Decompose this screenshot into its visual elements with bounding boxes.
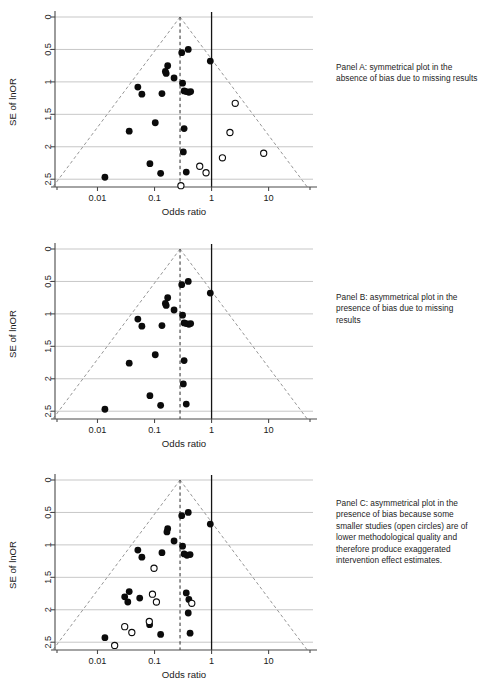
y-tick-label: 0 <box>43 14 53 19</box>
data-point-open <box>151 565 157 571</box>
x-tick-label: 10 <box>263 425 273 435</box>
y-tick-label: 1 <box>43 542 53 547</box>
y-tick-label: 1.5 <box>43 340 53 353</box>
data-point-filled <box>157 631 164 638</box>
panel-c-caption: Panel C: asymmetrical plot in the presen… <box>336 498 478 566</box>
data-point-open <box>197 163 203 169</box>
data-point-filled <box>180 149 187 156</box>
y-tick-label: 2 <box>43 376 53 381</box>
y-tick-label: 2.5 <box>43 405 53 418</box>
data-point-filled <box>136 595 143 602</box>
data-point-filled <box>134 316 141 323</box>
data-point-open <box>219 155 225 161</box>
panel-a-plot: 00.511.522.50.010.1110Odds ratioSE of ln… <box>0 0 330 232</box>
panel-a-caption: Panel A: symmetrical plot in the absence… <box>336 62 478 85</box>
y-tick-label: 2 <box>43 607 53 612</box>
data-point-open <box>129 629 135 635</box>
y-tick-label: 1 <box>43 79 53 84</box>
data-point-open <box>189 600 195 606</box>
data-point-filled <box>187 320 194 327</box>
data-point-filled <box>187 551 194 558</box>
data-point-open <box>149 591 155 597</box>
data-point-filled <box>147 160 154 167</box>
data-point-filled <box>183 590 190 597</box>
x-axis-title: Odds ratio <box>162 206 206 217</box>
panel-b-caption: Panel B: asymmetrical plot in the presen… <box>336 292 478 326</box>
data-point-filled <box>157 170 164 177</box>
data-point-filled <box>185 46 192 53</box>
data-point-filled <box>164 294 171 301</box>
data-point-filled <box>126 360 133 367</box>
data-point-filled <box>181 357 188 364</box>
funnel-right-limit <box>180 17 307 187</box>
data-point-filled <box>163 302 170 309</box>
data-point-filled <box>159 322 166 329</box>
y-tick-label: 0.5 <box>43 506 53 519</box>
y-tick-label: 0 <box>43 477 53 482</box>
data-point-filled <box>152 119 159 126</box>
y-axis-title: SE of lnOR <box>7 541 18 589</box>
y-axis-title: SE of lnOR <box>7 78 18 126</box>
data-point-filled <box>102 174 109 181</box>
data-point-filled <box>183 169 190 176</box>
data-point-open <box>146 618 152 624</box>
data-point-filled <box>102 406 109 413</box>
funnel-right-limit <box>180 249 307 419</box>
data-point-filled <box>171 75 178 82</box>
data-point-filled <box>187 630 194 637</box>
data-point-filled <box>185 509 192 516</box>
y-tick-label: 2.5 <box>43 173 53 186</box>
x-axis-title: Odds ratio <box>162 438 206 449</box>
panel-b-plot: 00.511.522.50.010.1110Odds ratioSE of ln… <box>0 232 330 464</box>
panel-b: 00.511.522.50.010.1110Odds ratioSE of ln… <box>0 232 478 464</box>
panel-b-svg: 00.511.522.50.010.1110Odds ratioSE of ln… <box>0 232 330 464</box>
data-point-filled <box>124 599 131 606</box>
data-point-open <box>232 100 238 106</box>
data-point-filled <box>178 281 185 288</box>
data-point-open <box>122 624 128 630</box>
data-point-filled <box>159 90 166 97</box>
data-point-filled <box>138 91 145 98</box>
data-point-filled <box>178 49 185 56</box>
data-point-filled <box>207 521 214 528</box>
data-point-filled <box>163 70 170 77</box>
data-point-filled <box>180 381 187 388</box>
data-point-filled <box>138 323 145 330</box>
funnel-left-limit <box>53 249 180 419</box>
data-point-filled <box>138 554 145 561</box>
y-tick-label: 2.5 <box>43 636 53 649</box>
y-axis-title: SE of lnOR <box>7 310 18 358</box>
data-point-filled <box>147 392 154 399</box>
data-point-filled <box>179 312 186 319</box>
data-point-filled <box>164 529 171 536</box>
data-point-filled <box>181 125 188 132</box>
x-tick-label: 0.01 <box>89 193 107 203</box>
x-tick-label: 1 <box>209 656 214 666</box>
data-point-open <box>203 170 209 176</box>
panel-c-plot: 00.511.522.50.010.1110Odds ratioSE of ln… <box>0 463 330 695</box>
x-tick-label: 10 <box>263 193 273 203</box>
data-point-filled <box>159 549 166 556</box>
x-tick-label: 0.1 <box>148 193 161 203</box>
panel-a: 00.511.522.50.010.1110Odds ratioSE of ln… <box>0 0 478 232</box>
x-tick-label: 0.1 <box>148 656 161 666</box>
panel-c-svg: 00.511.522.50.010.1110Odds ratioSE of ln… <box>0 463 330 695</box>
data-point-filled <box>171 538 178 545</box>
data-point-filled <box>207 290 214 297</box>
data-point-filled <box>134 547 141 554</box>
y-tick-label: 2 <box>43 144 53 149</box>
y-tick-label: 1.5 <box>43 571 53 584</box>
data-point-filled <box>171 307 178 314</box>
data-point-filled <box>157 402 164 409</box>
data-point-filled <box>183 401 190 408</box>
funnel-plot-figure: 00.511.522.50.010.1110Odds ratioSE of ln… <box>0 0 478 695</box>
data-point-filled <box>179 80 186 87</box>
data-point-open <box>153 599 159 605</box>
y-tick-label: 0.5 <box>43 275 53 288</box>
data-point-filled <box>126 128 133 135</box>
y-tick-label: 0.5 <box>43 43 53 56</box>
x-tick-label: 1 <box>209 425 214 435</box>
x-tick-label: 0.1 <box>148 425 161 435</box>
panel-c: 00.511.522.50.010.1110Odds ratioSE of ln… <box>0 463 478 695</box>
data-point-filled <box>102 634 109 641</box>
